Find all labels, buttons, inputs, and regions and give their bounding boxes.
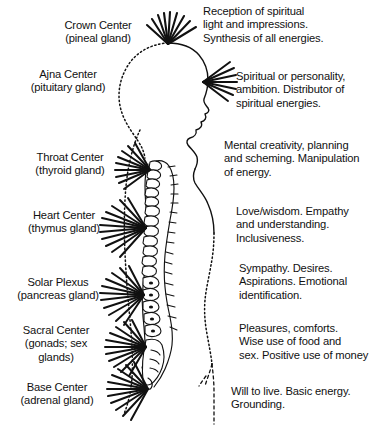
description-throat-center: Mental creativity, planning and scheming… — [224, 139, 390, 179]
torso-front-contour — [194, 169, 215, 424]
sacral-center-rays — [105, 320, 146, 376]
label-solar-plexus-center: Solar Plexus (pancreas gland) — [2, 276, 114, 303]
label-ajna-center: Ajna Center (pituitary gland) — [14, 68, 122, 95]
description-solar-plexus-center: Sympathy. Desires. Aspirations. Emotiona… — [239, 262, 391, 302]
description-base-center: Will to live. Basic energy. Grounding. — [231, 385, 391, 412]
label-base-center: Base Center (adrenal gland) — [2, 381, 112, 408]
head-outline — [119, 43, 168, 158]
ajna-center-rays — [203, 62, 237, 101]
face-profile — [168, 43, 209, 169]
label-heart-center: Heart Center (thymus gland) — [10, 209, 118, 236]
chakra-diagram-page: .ink { fill:none; stroke:#111; stroke-li… — [0, 0, 391, 429]
label-sacral-center: Sacral Center (gonads; sex glands) — [4, 324, 108, 364]
crown-center-rays — [147, 12, 196, 44]
base-center-rays — [107, 362, 148, 420]
description-heart-center: Love/wisdom. Empathy and understanding. … — [236, 205, 391, 245]
description-sacral-center: Pleasures, comforts. Wise use of food an… — [239, 322, 391, 362]
label-crown-center: Crown Center (pineal gland) — [46, 19, 150, 46]
label-throat-center: Throat Center (thyroid gland) — [16, 151, 124, 178]
description-ajna-center: Spiritual or personality, ambition. Dist… — [236, 70, 391, 110]
description-crown-center: Reception of spiritual light and impress… — [203, 5, 389, 45]
